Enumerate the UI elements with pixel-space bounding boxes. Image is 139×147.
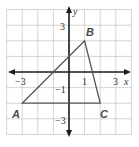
tick-x-3: 3 (113, 76, 118, 87)
y-axis-down-arrow-icon (66, 130, 72, 137)
x-axis-left-arrow-icon (8, 69, 15, 75)
vertex-label-c: C (100, 108, 109, 120)
tick-y-neg1: −1 (55, 84, 66, 95)
coordinate-plane: −3 1 3 x 3 −1 −3 y A B C (0, 0, 139, 147)
x-axis-label: x (123, 76, 129, 87)
vertex-label-b: B (86, 26, 94, 38)
tick-x-neg3: −3 (15, 76, 26, 87)
tick-y-neg3: −3 (55, 115, 66, 126)
tick-x-1: 1 (82, 76, 87, 87)
tick-y-3: 3 (60, 21, 65, 32)
x-axis-right-arrow-icon (124, 69, 131, 75)
y-axis-label: y (72, 6, 78, 17)
vertex-label-a: A (11, 108, 20, 120)
